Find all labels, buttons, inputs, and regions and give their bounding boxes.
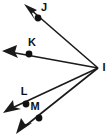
geometry-diagram: J K L M I: [0, 0, 109, 138]
ray-IL-arrowhead: [3, 100, 21, 113]
ray-IK-line: [10, 52, 98, 68]
rays-figure: J K L M I: [0, 0, 109, 138]
point-K-dot: [26, 51, 33, 58]
point-L-dot: [23, 101, 30, 108]
point-J-dot: [35, 15, 42, 22]
ray-IK-arrowhead: [2, 45, 18, 58]
point-J-label: J: [41, 1, 47, 13]
point-L-label: L: [21, 85, 28, 97]
ray-IM-arrowhead: [16, 118, 32, 134]
vertex-I-label: I: [102, 61, 105, 73]
point-M-dot: [36, 115, 43, 122]
point-M-label: M: [30, 100, 39, 112]
ray-IK: K: [2, 36, 98, 68]
point-K-label: K: [28, 36, 36, 48]
ray-IJ: J: [24, 1, 98, 68]
vertex-I: I: [102, 61, 105, 73]
